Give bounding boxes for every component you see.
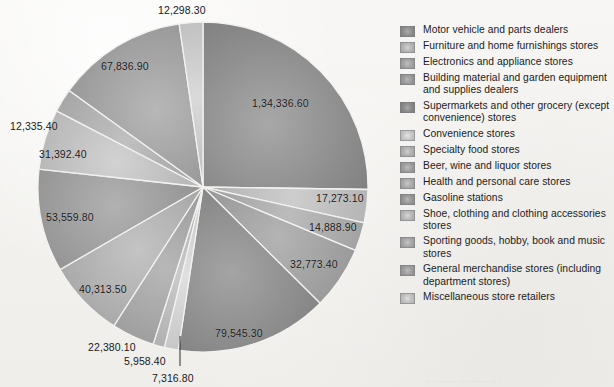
pie-value-label: 22,380.10 xyxy=(88,341,136,353)
legend-item-label: Convenience stores xyxy=(423,128,515,140)
legend-swatch-icon xyxy=(400,178,415,189)
legend-swatch-icon xyxy=(400,265,415,276)
pie-value-label: 12,298.30 xyxy=(158,4,206,16)
legend-swatch-icon xyxy=(400,74,415,85)
pie-value-label: 17,273.10 xyxy=(316,192,364,204)
legend-swatch-icon xyxy=(400,293,415,304)
legend-item[interactable]: Specialty food stores xyxy=(400,144,614,157)
legend-swatch-icon xyxy=(400,237,415,248)
legend-item-label: Specialty food stores xyxy=(423,144,520,156)
legend-item[interactable]: Miscellaneous store retailers xyxy=(400,291,614,304)
legend-swatch-icon xyxy=(400,210,415,221)
legend-swatch-icon xyxy=(400,194,415,205)
legend-item-label: General merchandise stores (including de… xyxy=(423,263,614,288)
pie-chart-area: 1,34,336.6017,273.1014,888.9032,773.4079… xyxy=(0,0,400,387)
legend-item[interactable]: Shoe, clothing and clothing accessories … xyxy=(400,208,614,233)
legend-swatch-icon xyxy=(400,58,415,69)
legend-item-label: Electronics and appliance stores xyxy=(423,56,573,68)
pie-value-label: 79,545.30 xyxy=(215,327,263,339)
pie-value-label: 12,335.40 xyxy=(10,120,58,132)
pie-value-label: 53,559.80 xyxy=(46,211,94,223)
legend-item-label: Gasoline stations xyxy=(423,192,503,204)
legend-item-label: Supermarkets and other grocery (except c… xyxy=(423,100,614,125)
legend-item-label: Building material and garden equipment a… xyxy=(423,72,614,97)
legend-item-label: Miscellaneous store retailers xyxy=(423,291,555,303)
legend: Motor vehicle and parts dealersFurniture… xyxy=(400,24,614,307)
legend-swatch-icon xyxy=(400,102,415,113)
legend-swatch-icon xyxy=(400,146,415,157)
pie-value-label: 32,773.40 xyxy=(290,258,338,270)
legend-item[interactable]: Beer, wine and liquor stores xyxy=(400,160,614,173)
pie-value-label: 31,392.40 xyxy=(39,148,87,160)
legend-item[interactable]: Electronics and appliance stores xyxy=(400,56,614,69)
pie-value-label: 40,313.50 xyxy=(79,283,127,295)
legend-item-label: Sporting goods, hobby, book and music st… xyxy=(423,235,614,260)
pie-slice-group xyxy=(38,22,368,352)
legend-item-label: Motor vehicle and parts dealers xyxy=(423,24,568,36)
pie-value-label: 67,836.90 xyxy=(101,60,149,72)
pie-value-label: 1,34,336.60 xyxy=(252,97,309,109)
pie-value-label: 5,958.40 xyxy=(124,355,166,367)
legend-item[interactable]: Furniture and home furnishings stores xyxy=(400,40,614,53)
legend-item[interactable]: Sporting goods, hobby, book and music st… xyxy=(400,235,614,260)
pie-value-label: 14,888.90 xyxy=(309,221,357,233)
legend-item-label: Beer, wine and liquor stores xyxy=(423,160,551,172)
legend-item-label: Furniture and home furnishings stores xyxy=(423,40,598,52)
legend-item-label: Health and personal care stores xyxy=(423,176,571,188)
legend-item[interactable]: General merchandise stores (including de… xyxy=(400,263,614,288)
pie-value-label: 7,316.80 xyxy=(152,372,194,384)
legend-item[interactable]: Convenience stores xyxy=(400,128,614,141)
legend-swatch-icon xyxy=(400,42,415,53)
legend-item[interactable]: Building material and garden equipment a… xyxy=(400,72,614,97)
page-bleed-text: · ·· · ··· ··· ··· ···· ·· ·· · xyxy=(420,378,501,385)
legend-item[interactable]: Health and personal care stores xyxy=(400,176,614,189)
legend-item[interactable]: Gasoline stations xyxy=(400,192,614,205)
legend-swatch-icon xyxy=(400,130,415,141)
legend-item[interactable]: Supermarkets and other grocery (except c… xyxy=(400,100,614,125)
legend-item[interactable]: Motor vehicle and parts dealers xyxy=(400,24,614,37)
legend-swatch-icon xyxy=(400,162,415,173)
legend-item-label: Shoe, clothing and clothing accessories … xyxy=(423,208,614,233)
legend-swatch-icon xyxy=(400,26,415,37)
